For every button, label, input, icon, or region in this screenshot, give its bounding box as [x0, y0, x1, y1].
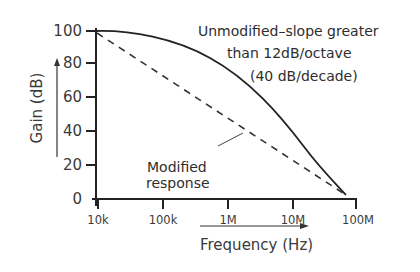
- x-tick-label-100k: 100k: [149, 213, 178, 227]
- y-axis-arrowhead-icon: [54, 58, 60, 66]
- unmodified-annotation-line1: Unmodified–slope greater: [198, 23, 379, 39]
- x-ticks: [98, 199, 356, 209]
- y-tick-label-0: 0: [72, 190, 82, 208]
- y-tick-label-40: 40: [63, 122, 82, 140]
- x-tick-label-100M: 100M: [342, 213, 374, 227]
- y-axis-title: Gain (dB): [28, 73, 46, 144]
- bode-plot: 100 80 60 40 20 0 10k 100k 1M 10M 100M G…: [0, 0, 420, 272]
- y-tick-label-60: 60: [63, 88, 82, 106]
- x-axis-title: Frequency (Hz): [200, 236, 313, 254]
- modified-leader-line: [218, 133, 243, 146]
- modified-annotation-line1: Modified: [147, 159, 207, 175]
- modified-annotation-line2: response: [146, 175, 210, 191]
- unmodified-annotation-line2: than 12dB/octave: [227, 45, 352, 61]
- x-tick-label-10k: 10k: [87, 213, 109, 227]
- x-tick-label-1M: 1M: [219, 213, 236, 227]
- y-tick-label-100: 100: [53, 22, 82, 40]
- y-tick-label-80: 80: [63, 54, 82, 72]
- y-ticks: [86, 31, 96, 165]
- unmodified-annotation-line3: (40 dB/decade): [250, 68, 358, 84]
- y-tick-label-20: 20: [63, 156, 82, 174]
